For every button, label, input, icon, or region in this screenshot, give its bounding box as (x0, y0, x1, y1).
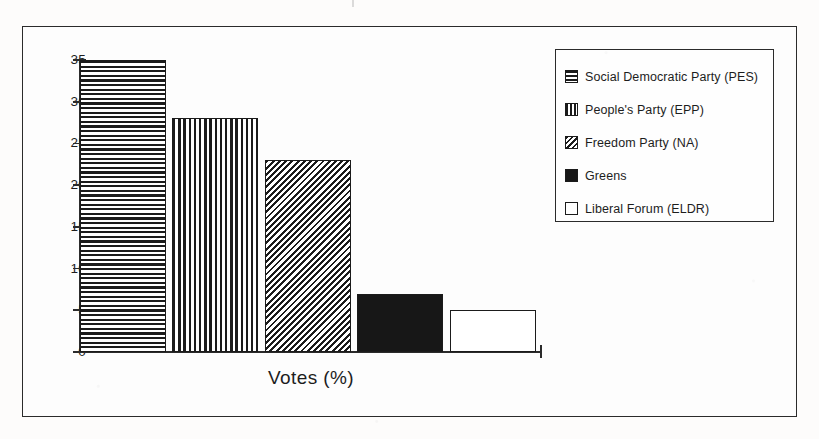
bar (172, 118, 258, 352)
diagonal-stripes-swatch (565, 136, 578, 149)
empty-white-swatch (565, 202, 578, 215)
legend-item: People's Party (EPP) (565, 94, 773, 125)
bar-series (80, 60, 542, 352)
horizontal-stripes-swatch (565, 70, 578, 83)
cropped-title-remnant (330, 0, 390, 7)
solid-black-swatch (565, 169, 578, 182)
legend-item-label: Freedom Party (NA) (585, 136, 699, 150)
legend-item: Liberal Forum (ELDR) (565, 193, 773, 224)
legend: Social Democratic Party (PES)People's Pa… (555, 49, 774, 222)
legend-item-label: Liberal Forum (ELDR) (585, 202, 709, 216)
legend-item-label: Greens (585, 169, 627, 183)
plot-area: 35302520151050 Votes (%) Social Democrat… (23, 27, 798, 418)
legend-item: Social Democratic Party (PES) (565, 61, 773, 92)
legend-item-label: People's Party (EPP) (585, 103, 704, 117)
bar (80, 60, 166, 352)
legend-item: Greens (565, 160, 773, 191)
x-axis-title: Votes (%) (80, 367, 542, 389)
bar (357, 294, 443, 352)
scanned-page: 35302520151050 Votes (%) Social Democrat… (0, 0, 819, 439)
legend-item-label: Social Democratic Party (PES) (585, 70, 758, 84)
legend-item: Freedom Party (NA) (565, 127, 773, 158)
vertical-stripes-swatch (565, 103, 578, 116)
figure-frame: 35302520151050 Votes (%) Social Democrat… (22, 26, 797, 417)
bar (450, 310, 536, 352)
bar (265, 160, 351, 352)
